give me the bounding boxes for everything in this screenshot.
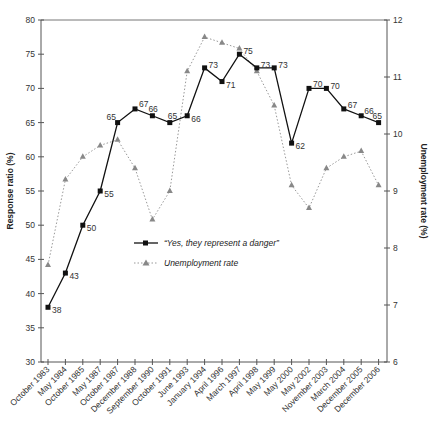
y-tick-label: 65 bbox=[26, 118, 36, 128]
triangle-marker-icon bbox=[202, 34, 208, 40]
y2-tick-label: 9 bbox=[393, 186, 398, 196]
square-marker-icon bbox=[307, 86, 312, 91]
square-marker-icon bbox=[341, 106, 346, 111]
triangle-marker-icon bbox=[376, 182, 382, 188]
y-tick-label: 45 bbox=[26, 254, 36, 264]
square-marker-icon bbox=[150, 113, 155, 118]
square-marker-icon bbox=[185, 113, 190, 118]
legend-label-danger: “Yes, they represent a danger” bbox=[164, 238, 280, 248]
plot-frame bbox=[41, 20, 387, 362]
y-tick-label: 60 bbox=[26, 152, 36, 162]
square-marker-icon bbox=[143, 241, 148, 246]
chart-canvas: 3035404550556065707580 6789101112 Octobe… bbox=[0, 0, 429, 422]
data-label: 70 bbox=[330, 81, 340, 91]
y-tick-label: 70 bbox=[26, 83, 36, 93]
data-label: 73 bbox=[278, 60, 288, 70]
data-label: 67 bbox=[139, 99, 149, 109]
y-tick-label: 50 bbox=[26, 220, 36, 230]
triangle-marker-icon bbox=[132, 165, 138, 171]
square-marker-icon bbox=[46, 305, 51, 310]
data-label: 70 bbox=[313, 79, 323, 89]
y2-tick-label: 7 bbox=[393, 300, 398, 310]
right-axis-title: Unemployment rate (%) bbox=[419, 144, 429, 239]
data-label: 65 bbox=[107, 112, 117, 122]
triangle-marker-icon bbox=[323, 165, 329, 171]
square-marker-icon bbox=[220, 79, 225, 84]
y-tick-label: 35 bbox=[26, 323, 36, 333]
square-marker-icon bbox=[359, 113, 364, 118]
triangle-marker-icon bbox=[271, 102, 277, 108]
square-marker-icon bbox=[133, 106, 138, 111]
triangle-marker-icon bbox=[184, 68, 190, 74]
legend: “Yes, they represent a danger” Unemploym… bbox=[134, 238, 280, 268]
triangle-marker-icon bbox=[97, 142, 103, 148]
square-marker-icon bbox=[272, 65, 277, 70]
triangle-marker-icon bbox=[80, 153, 86, 159]
data-label: 55 bbox=[104, 189, 114, 199]
y2-tick-label: 10 bbox=[393, 129, 403, 139]
y-tick-label: 80 bbox=[26, 15, 36, 25]
square-marker-icon bbox=[289, 141, 294, 146]
y2-tick-label: 12 bbox=[393, 15, 403, 25]
square-marker-icon bbox=[324, 86, 329, 91]
legend-label-unemployment: Unemployment rate bbox=[164, 258, 238, 268]
data-label: 38 bbox=[52, 305, 62, 315]
y-tick-label: 40 bbox=[26, 289, 36, 299]
data-label: 75 bbox=[243, 46, 253, 56]
y-tick-label: 30 bbox=[26, 357, 36, 367]
y2-tick-label: 11 bbox=[393, 72, 402, 82]
data-label: 73 bbox=[261, 60, 271, 70]
square-marker-icon bbox=[167, 120, 172, 125]
square-marker-icon bbox=[254, 65, 259, 70]
y-tick-label: 75 bbox=[26, 49, 36, 59]
data-label: 73 bbox=[209, 60, 219, 70]
data-label: 71 bbox=[226, 80, 236, 90]
square-marker-icon bbox=[237, 52, 242, 57]
data-label: 43 bbox=[69, 271, 79, 281]
data-label: 65 bbox=[168, 111, 178, 121]
y2-tick-label: 8 bbox=[393, 243, 398, 253]
y2-tick-label: 6 bbox=[393, 357, 398, 367]
data-label: 66 bbox=[148, 104, 158, 114]
triangle-marker-icon bbox=[115, 136, 121, 142]
square-marker-icon bbox=[98, 189, 103, 194]
triangle-marker-icon bbox=[167, 188, 173, 194]
triangle-marker-icon bbox=[62, 176, 68, 182]
data-label: 62 bbox=[296, 141, 306, 151]
triangle-marker-icon bbox=[358, 148, 364, 154]
data-label: 67 bbox=[348, 100, 358, 110]
square-marker-icon bbox=[80, 223, 85, 228]
left-axis-title: Response ratio (%) bbox=[5, 152, 15, 229]
data-label: 66 bbox=[191, 114, 201, 124]
square-marker-icon bbox=[376, 120, 381, 125]
triangle-marker-icon bbox=[219, 39, 225, 45]
series-danger-response: 3843505565676665667371757373627070676665 bbox=[46, 46, 383, 315]
triangle-marker-icon bbox=[341, 153, 347, 159]
square-marker-icon bbox=[63, 271, 68, 276]
data-label: 50 bbox=[87, 223, 97, 233]
triangle-marker-icon bbox=[289, 182, 295, 188]
y-tick-label: 55 bbox=[26, 186, 36, 196]
x-axis: October 1983May 1984October 1985May 1987… bbox=[8, 359, 382, 416]
square-marker-icon bbox=[202, 65, 207, 70]
data-label: 65 bbox=[373, 111, 383, 121]
triangle-marker-icon bbox=[306, 205, 312, 211]
triangle-marker-icon bbox=[45, 262, 51, 268]
